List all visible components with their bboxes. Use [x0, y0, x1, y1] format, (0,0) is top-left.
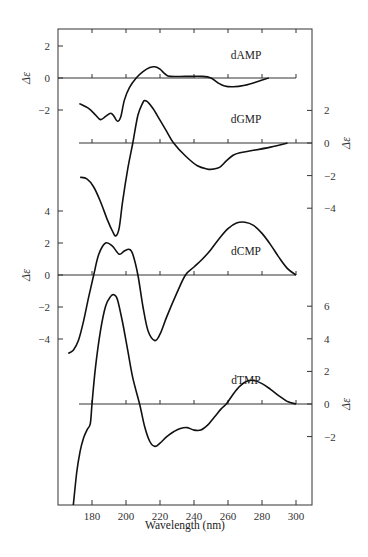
dgmp-ytick-label: −2 — [324, 170, 336, 182]
dcmp-label: dCMP — [231, 245, 261, 257]
x-axis-label: Wavelength (nm) — [145, 519, 225, 532]
dcmp-y-axis-label: Δε — [19, 269, 33, 282]
damp-ytick-label: −2 — [38, 104, 50, 116]
dtmp-ytick-label: 6 — [324, 300, 330, 312]
damp-y-axis-label: Δε — [19, 72, 33, 85]
damp-ytick-label: 2 — [45, 40, 51, 52]
dtmp-label: dTMP — [231, 374, 260, 386]
panel-dcmp: 420−2−4ΔεdCMP — [19, 205, 296, 353]
dtmp-curve — [73, 295, 296, 505]
dgmp-ytick-label: −4 — [324, 202, 336, 214]
xtick-label: 180 — [84, 510, 101, 522]
dcmp-ytick-label: −4 — [38, 333, 50, 345]
xtick-label: 300 — [288, 510, 305, 522]
damp-ytick-label: 0 — [45, 72, 51, 84]
cd-spectra-chart: 20−2ΔεdAMP20−2−4ΔεdGMP420−2−4ΔεdCMP6420−… — [0, 0, 368, 557]
dtmp-ytick-label: 2 — [324, 365, 330, 377]
dcmp-ytick-label: −2 — [38, 301, 50, 313]
panel-dtmp: 6420−2ΔεdTMP — [73, 295, 353, 505]
dtmp-ytick-label: 4 — [324, 333, 330, 345]
dgmp-ytick-label: 0 — [324, 137, 330, 149]
dcmp-ytick-label: 4 — [45, 205, 51, 217]
damp-label: dAMP — [231, 49, 262, 61]
dtmp-ytick-label: 0 — [324, 398, 330, 410]
dcmp-curve — [68, 222, 296, 353]
xtick-label: 280 — [254, 510, 271, 522]
panel-damp: 20−2ΔεdAMP — [19, 40, 296, 121]
dgmp-label: dGMP — [231, 113, 262, 125]
dtmp-y-axis-label: Δε — [339, 398, 353, 411]
dcmp-ytick-label: 2 — [45, 237, 51, 249]
dcmp-ytick-label: 0 — [45, 269, 51, 281]
dgmp-ytick-label: 2 — [324, 104, 330, 116]
dtmp-ytick-label: −2 — [324, 431, 336, 443]
dgmp-y-axis-label: Δε — [339, 137, 353, 150]
xtick-label: 200 — [118, 510, 135, 522]
